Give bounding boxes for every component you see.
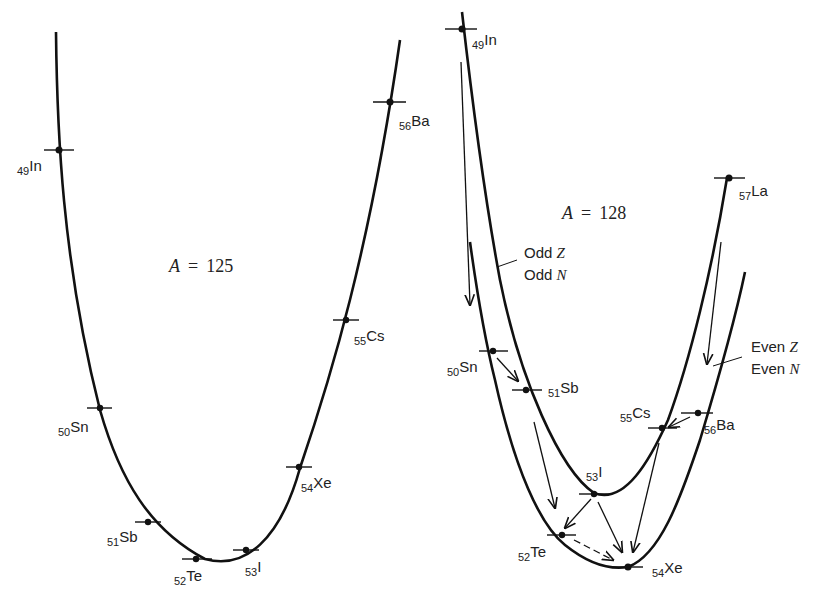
panel-a128: 49In 50Sn 51Sb 52Te 53I 54Xe 55Cs 56Ba 5… <box>445 12 800 579</box>
decay-arrow-la-ba <box>707 242 721 364</box>
nuclide-label-cs55: 55Cs <box>354 327 385 347</box>
legend-even-n: Even N <box>751 360 800 377</box>
nuclide-marker-la57 <box>714 175 745 182</box>
nuclide-label-in49: 49In <box>17 157 42 177</box>
nuclide-label-te52: 52Te <box>518 543 546 563</box>
nuclide-marker-xe54 <box>612 564 643 571</box>
legend-leader-odd <box>497 260 517 267</box>
nuclide-marker-sn50 <box>479 348 508 354</box>
nuclide-label-te52: 52Te <box>174 567 202 587</box>
nuclide-label-i53: 53I <box>245 558 261 578</box>
nuclide-marker-in49 <box>44 147 74 154</box>
decay-arrow-i-te <box>565 499 591 528</box>
panel-title-a125: A=125 <box>168 256 233 276</box>
nuclide-marker-te52 <box>547 532 576 538</box>
nuclide-marker-xe54 <box>286 464 312 470</box>
nuclide-label-sb51: 51Sb <box>107 528 138 548</box>
parabola-odd-z-odd-n <box>462 12 727 495</box>
nuclide-label-in49: 49In <box>472 31 497 51</box>
legend-odd-n: Odd N <box>524 266 568 283</box>
decay-arrow-te-xe <box>574 540 613 560</box>
decay-arrow-in-sn <box>461 62 470 305</box>
nuclide-label-sb51: 51Sb <box>548 379 579 399</box>
nuclide-label-cs55: 55Cs <box>620 404 651 424</box>
nuclide-marker-in49 <box>445 26 477 33</box>
nuclide-label-xe54: 54Xe <box>652 559 683 579</box>
legend-odd-z: Odd Z <box>524 244 566 261</box>
nuclide-marker-sb51 <box>512 387 542 393</box>
nuclide-label-la57: 57La <box>739 182 769 202</box>
nuclide-label-xe54: 54Xe <box>301 474 332 494</box>
nuclide-marker-sb51 <box>135 519 161 525</box>
nuclide-label-i53: 53I <box>586 463 602 483</box>
decay-arrow-cs-xe <box>633 443 659 552</box>
nuclide-marker-cs55 <box>333 317 359 323</box>
decay-arrow-i-xe <box>598 502 622 552</box>
mass-parabola-a125 <box>56 32 400 561</box>
legend-even-z: Even Z <box>751 338 798 355</box>
nuclide-marker-ba56 <box>373 99 406 106</box>
panel-title-a128: A=128 <box>561 203 626 223</box>
nuclide-label-ba56: 56Ba <box>399 112 430 132</box>
mass-parabola-diagram: 49In 50Sn 51Sb 52Te 53I 54Xe 55Cs 56Ba A… <box>0 0 831 604</box>
nuclide-label-sn50: 50Sn <box>58 418 89 438</box>
nuclide-label-ba56: 56Ba <box>704 416 735 436</box>
nuclide-marker-te52 <box>182 556 212 562</box>
nuclide-marker-sn50 <box>87 405 112 411</box>
panel-a125: 49In 50Sn 51Sb 52Te 53I 54Xe 55Cs 56Ba A… <box>17 32 430 587</box>
decay-arrow-sn-sb <box>497 358 518 381</box>
decay-arrow-ba-cs <box>669 417 690 427</box>
legend-leader-even <box>713 357 742 366</box>
nuclide-label-sn50: 50Sn <box>447 358 478 378</box>
